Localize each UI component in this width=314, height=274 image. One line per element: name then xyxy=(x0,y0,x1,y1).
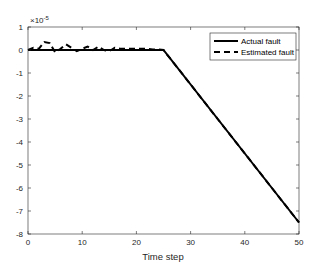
x-tick-label: 10 xyxy=(78,238,87,247)
y-tick-label: -8 xyxy=(16,230,24,239)
fault-estimation-chart: 01020304050 10-1-2-3-4-5-6-7-8 ×10-5 Tim… xyxy=(0,0,314,274)
y-tick-label: -2 xyxy=(16,92,24,101)
y-tick-label: -6 xyxy=(16,184,24,193)
y-tick-label: -5 xyxy=(16,161,24,170)
x-tick-label: 20 xyxy=(132,238,141,247)
legend-entry: Estimated fault xyxy=(241,48,295,57)
x-axis-label: Time step xyxy=(142,251,183,262)
y-tick-label: -4 xyxy=(16,138,24,147)
y-axis-exponent: ×10-5 xyxy=(30,15,50,25)
y-tick-label: -7 xyxy=(16,207,24,216)
y-tick-label: -3 xyxy=(16,115,24,124)
x-tick-label: 40 xyxy=(240,238,249,247)
x-tick-label: 0 xyxy=(26,238,31,247)
y-tick-label: -1 xyxy=(16,69,24,78)
x-tick-label: 50 xyxy=(295,238,304,247)
legend: Actual faultEstimated fault xyxy=(210,33,296,60)
y-tick-label: 1 xyxy=(19,23,24,32)
x-tick-label: 30 xyxy=(186,238,195,247)
legend-entry: Actual fault xyxy=(241,37,281,46)
y-tick-label: 0 xyxy=(19,46,24,55)
